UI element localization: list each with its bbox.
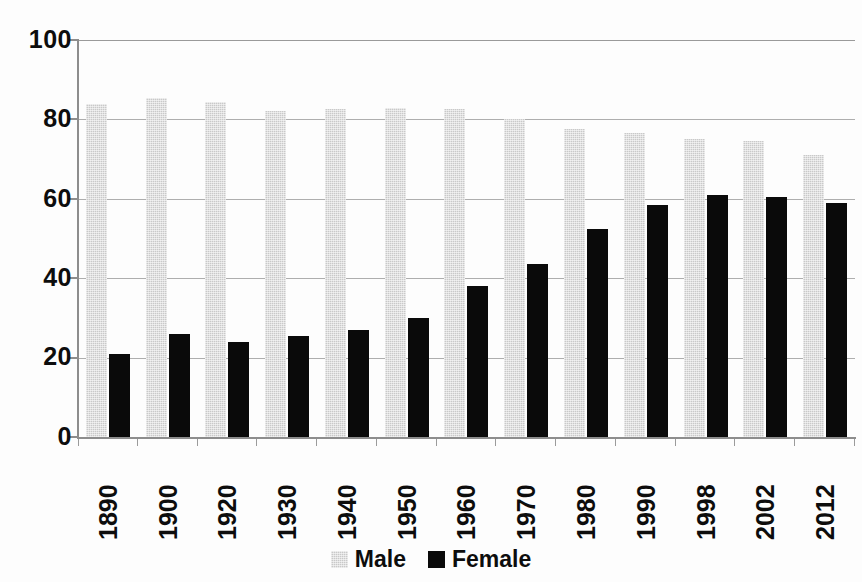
y-axis-label-60: 60 bbox=[43, 186, 72, 211]
bar-group bbox=[616, 40, 676, 437]
bar-male-1900 bbox=[146, 98, 167, 437]
bar-male-1940 bbox=[325, 109, 346, 437]
x-axis-label-1970: 1970 bbox=[513, 452, 539, 540]
x-tick-cell bbox=[676, 439, 736, 447]
bar-female-1950 bbox=[408, 318, 429, 437]
bar-group bbox=[795, 40, 855, 437]
x-label-cell: 1900 bbox=[138, 452, 198, 542]
male-swatch-icon bbox=[331, 551, 348, 568]
bar-group bbox=[198, 40, 258, 437]
x-tick-cell bbox=[257, 439, 317, 447]
x-label-cell: 1990 bbox=[616, 452, 676, 542]
x-axis-ticks bbox=[78, 439, 855, 447]
x-axis-label-1890: 1890 bbox=[95, 452, 121, 540]
bar-male-1970 bbox=[504, 119, 525, 437]
female-swatch-icon bbox=[428, 551, 445, 568]
bar-female-1998 bbox=[707, 195, 728, 437]
x-axis-label-1980: 1980 bbox=[573, 452, 599, 540]
x-tick-mark bbox=[78, 439, 79, 446]
x-label-cell: 1960 bbox=[437, 452, 497, 542]
x-tick-cell bbox=[377, 439, 437, 447]
bar-group bbox=[437, 40, 497, 437]
x-tick-cell bbox=[138, 439, 198, 447]
x-label-cell: 2002 bbox=[735, 452, 795, 542]
x-tick-cell bbox=[78, 439, 138, 447]
bar-group bbox=[78, 40, 138, 437]
bar-male-1990 bbox=[624, 133, 645, 437]
x-tick-cell bbox=[616, 439, 676, 447]
x-axis-label-1940: 1940 bbox=[334, 452, 360, 540]
bar-group bbox=[735, 40, 795, 437]
bar-group bbox=[496, 40, 556, 437]
x-tick-mark bbox=[854, 439, 855, 446]
x-axis-label-1990: 1990 bbox=[633, 452, 659, 540]
bar-male-2002 bbox=[743, 141, 764, 437]
x-tick-cell bbox=[556, 439, 616, 447]
bar-female-1930 bbox=[288, 336, 309, 437]
x-tick-cell bbox=[496, 439, 556, 447]
x-axis-label-1900: 1900 bbox=[155, 452, 181, 540]
x-axis-labels: 1890190019201930194019501960197019801990… bbox=[78, 452, 855, 542]
bar-female-1970 bbox=[527, 264, 548, 437]
bar-male-1950 bbox=[385, 108, 406, 438]
bar-female-1900 bbox=[169, 334, 190, 437]
x-axis-label-1920: 1920 bbox=[214, 452, 240, 540]
y-axis-label-0: 0 bbox=[58, 424, 72, 449]
bar-male-1980 bbox=[564, 129, 585, 437]
x-label-cell: 1930 bbox=[257, 452, 317, 542]
legend-item-male: Male bbox=[331, 548, 406, 571]
bars-layer bbox=[78, 40, 855, 437]
x-label-cell: 2012 bbox=[795, 452, 855, 542]
bar-group bbox=[676, 40, 736, 437]
legend-label-female: Female bbox=[452, 548, 531, 571]
bar-male-2012 bbox=[803, 155, 824, 437]
y-axis-label-20: 20 bbox=[43, 344, 72, 369]
bar-female-2002 bbox=[766, 197, 787, 437]
x-label-cell: 1890 bbox=[78, 452, 138, 542]
bar-group bbox=[257, 40, 317, 437]
x-tick-cell bbox=[437, 439, 497, 447]
x-axis-label-1930: 1930 bbox=[274, 452, 300, 540]
x-tick-cell bbox=[735, 439, 795, 447]
bar-group bbox=[317, 40, 377, 437]
bar-male-1930 bbox=[265, 111, 286, 437]
x-axis-label-2002: 2002 bbox=[752, 452, 778, 540]
x-label-cell: 1920 bbox=[198, 452, 258, 542]
x-axis-label-1960: 1960 bbox=[453, 452, 479, 540]
legend-item-female: Female bbox=[428, 548, 531, 571]
bar-male-1998 bbox=[684, 139, 705, 437]
bar-group bbox=[138, 40, 198, 437]
bar-female-1960 bbox=[467, 286, 488, 437]
bar-chart: 100 80 60 40 20 0 1890190019201930194019… bbox=[0, 0, 862, 582]
x-label-cell: 1980 bbox=[556, 452, 616, 542]
bar-female-1890 bbox=[109, 354, 130, 437]
x-axis-label-1950: 1950 bbox=[394, 452, 420, 540]
x-label-cell: 1950 bbox=[377, 452, 437, 542]
x-label-cell: 1970 bbox=[496, 452, 556, 542]
x-tick-cell bbox=[795, 439, 855, 447]
bar-female-1920 bbox=[228, 342, 249, 437]
bar-male-1920 bbox=[205, 102, 226, 437]
x-label-cell: 1998 bbox=[676, 452, 736, 542]
y-axis-label-40: 40 bbox=[43, 265, 72, 290]
bar-female-1980 bbox=[587, 229, 608, 437]
bar-female-2012 bbox=[826, 203, 847, 437]
x-axis-label-2012: 2012 bbox=[812, 452, 838, 540]
bar-group bbox=[377, 40, 437, 437]
bar-male-1960 bbox=[444, 109, 465, 437]
x-axis-label-1998: 1998 bbox=[693, 452, 719, 540]
bar-female-1990 bbox=[647, 205, 668, 437]
y-axis-label-80: 80 bbox=[43, 106, 72, 131]
x-label-cell: 1940 bbox=[317, 452, 377, 542]
bar-male-1890 bbox=[86, 104, 107, 437]
bar-group bbox=[556, 40, 616, 437]
x-tick-cell bbox=[198, 439, 258, 447]
chart-legend: Male Female bbox=[0, 548, 862, 571]
bar-female-1940 bbox=[348, 330, 369, 437]
x-tick-cell bbox=[317, 439, 377, 447]
legend-label-male: Male bbox=[355, 548, 406, 571]
y-axis-label-100: 100 bbox=[29, 27, 72, 52]
